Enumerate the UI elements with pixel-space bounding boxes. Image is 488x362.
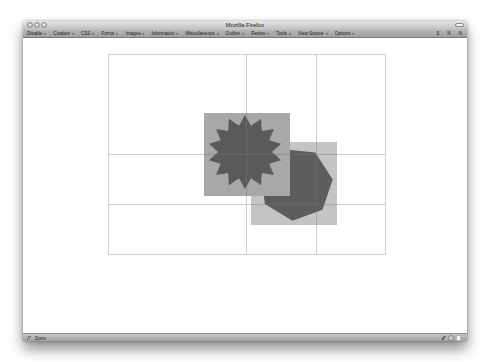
menu-label: Disable — [27, 31, 42, 36]
menu-label: CSS — [81, 31, 90, 36]
chevron-down-icon: ▾ — [217, 32, 219, 36]
chevron-down-icon: ▾ — [289, 32, 291, 36]
toolbar-toggle-button[interactable] — [455, 23, 464, 27]
chevron-down-icon: ▾ — [176, 32, 178, 36]
toolbar-right-item[interactable]: S — [436, 30, 439, 38]
status-text: Done — [35, 336, 46, 341]
status-bar: Done — [23, 333, 467, 341]
menu-label: Miscellaneous — [185, 31, 214, 36]
clock-icon[interactable] — [448, 335, 454, 341]
toolbar-right-item[interactable]: N — [459, 30, 462, 38]
toolbar-menu-options[interactable]: Options▾ — [335, 30, 355, 38]
menu-label: Options — [335, 31, 351, 36]
toolbar-right-tools: S N N — [436, 30, 462, 38]
chevron-down-icon: ▾ — [44, 32, 46, 36]
toolbar-menu-information[interactable]: Information▾ — [151, 30, 178, 38]
title-bar[interactable]: Mozilla Firefox — [23, 21, 467, 30]
menu-label: Images — [125, 31, 140, 36]
menu-label: Forms — [101, 31, 114, 36]
toolbar-menu-disable[interactable]: Disable▾ — [27, 30, 46, 38]
tool-icon[interactable] — [441, 335, 446, 341]
chevron-down-icon: ▾ — [352, 32, 354, 36]
toolbar-menu-tools[interactable]: Tools▾ — [276, 30, 291, 38]
toolbar-menu-css[interactable]: CSS▾ — [81, 30, 94, 38]
toolbar-menu-outline[interactable]: Outline▾ — [226, 30, 245, 38]
menu-label: Cookies — [53, 31, 70, 36]
toolbar-menu-cookies[interactable]: Cookies▾ — [53, 30, 74, 38]
menu-label: Tools — [276, 31, 287, 36]
toolbar-right-item[interactable]: N — [447, 30, 450, 38]
toolbar-menu-view-source[interactable]: View Source▾ — [298, 30, 328, 38]
page-icon[interactable] — [456, 335, 461, 341]
chevron-down-icon: ▾ — [142, 32, 144, 36]
chevron-down-icon: ▾ — [242, 32, 244, 36]
menu-label: Outline — [226, 31, 241, 36]
toolbar-menus: Disable▾Cookies▾CSS▾Forms▾Images▾Informa… — [27, 30, 354, 38]
toolbar-menu-images[interactable]: Images▾ — [125, 30, 144, 38]
menu-label: Information — [151, 31, 174, 36]
web-developer-icon[interactable] — [26, 335, 32, 341]
browser-window: Mozilla Firefox Disable▾Cookies▾CSS▾Form… — [23, 21, 467, 341]
menu-label: View Source — [298, 31, 324, 36]
toolbar-menu-resize[interactable]: Resize▾ — [251, 30, 269, 38]
window-title: Mozilla Firefox — [23, 21, 467, 30]
chevron-down-icon: ▾ — [72, 32, 74, 36]
chevron-down-icon: ▾ — [116, 32, 118, 36]
chevron-down-icon: ▾ — [92, 32, 94, 36]
toolbar-menu-miscellaneous[interactable]: Miscellaneous▾ — [185, 30, 218, 38]
toolbar-menu-forms[interactable]: Forms▾ — [101, 30, 118, 38]
menu-label: Resize — [251, 31, 265, 36]
chevron-down-icon: ▾ — [326, 32, 328, 36]
web-developer-toolbar: Disable▾Cookies▾CSS▾Forms▾Images▾Informa… — [23, 30, 467, 38]
chevron-down-icon: ▾ — [267, 32, 269, 36]
demo-canvas — [23, 38, 467, 333]
page-content — [23, 38, 467, 333]
